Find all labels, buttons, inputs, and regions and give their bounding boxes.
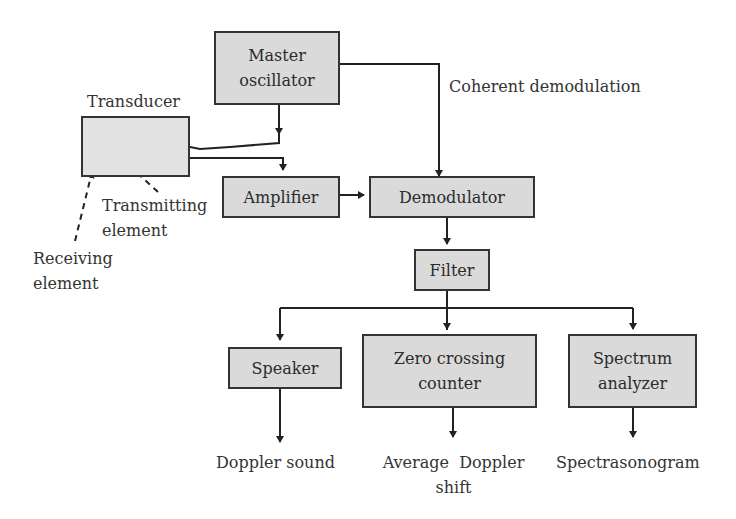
zero-crossing-counter-block: Zero crossing counter [362, 334, 537, 408]
spectrasonogram-label: Spectrasonogram [556, 450, 700, 475]
speaker-block: Speaker [228, 347, 342, 389]
master-oscillator-block: Master oscillator [214, 31, 340, 105]
wire-coherent-demod [339, 64, 439, 176]
amplifier-block: Amplifier [222, 176, 340, 218]
transducer-label: Transducer [87, 89, 180, 114]
average-doppler-shift-label: Average Doppler shift [376, 450, 531, 500]
transducer-box [81, 116, 190, 177]
transmitting-element-label: Transmitting element [102, 193, 207, 243]
receiving-element-label: Receiving element [33, 246, 113, 296]
demodulator-block: Demodulator [369, 176, 535, 218]
receiving-pointer [75, 172, 92, 241]
spectrum-analyzer-block: Spectrum analyzer [568, 334, 697, 408]
doppler-sound-label: Doppler sound [216, 450, 335, 475]
coherent-demodulation-label: Coherent demodulation [449, 74, 641, 99]
filter-block: Filter [414, 249, 490, 291]
